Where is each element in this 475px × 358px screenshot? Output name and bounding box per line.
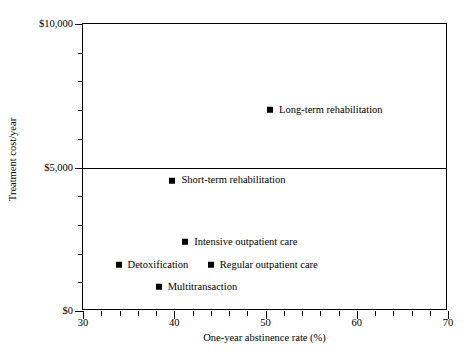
x-axis-tick-label: 30 <box>78 318 89 329</box>
y-axis-major-tick <box>75 24 83 25</box>
data-point[interactable]: Intensive outpatient care <box>182 237 297 248</box>
y-axis-major-tick <box>75 311 83 312</box>
data-point-label: Long-term rehabilitation <box>279 105 383 116</box>
x-axis-minor-tick <box>229 311 230 316</box>
x-axis-minor-tick <box>412 311 413 316</box>
x-axis-minor-tick <box>320 311 321 316</box>
x-axis-minor-tick <box>393 311 394 316</box>
x-axis-minor-tick <box>156 311 157 316</box>
y-axis-minor-tick <box>78 196 83 197</box>
data-point[interactable]: Long-term rehabilitation <box>267 105 383 116</box>
data-point-label: Regular outpatient care <box>220 259 318 270</box>
data-point[interactable]: Multitransaction <box>156 281 237 292</box>
x-axis-tick-label: 60 <box>352 318 363 329</box>
x-axis-minor-tick <box>302 311 303 316</box>
x-axis-tick-label: 70 <box>443 318 454 329</box>
x-axis-minor-tick <box>247 311 248 316</box>
y-axis-minor-tick <box>78 81 83 82</box>
data-point-label: Intensive outpatient care <box>194 237 297 248</box>
data-point[interactable]: Detoxification <box>116 259 189 270</box>
y-axis-minor-tick <box>78 53 83 54</box>
x-axis-tick-label: 40 <box>169 318 180 329</box>
x-axis-minor-tick <box>211 311 212 316</box>
y-axis-tick-label: $0 <box>63 306 74 317</box>
x-axis-minor-tick <box>339 311 340 316</box>
y-axis-title: Treatment cost/year <box>8 16 24 303</box>
y-axis-minor-tick <box>78 254 83 255</box>
data-point[interactable]: Regular outpatient care <box>208 259 318 270</box>
x-axis-minor-tick <box>284 311 285 316</box>
data-point-marker <box>169 177 175 183</box>
data-point-label: Detoxification <box>128 259 189 270</box>
x-axis-minor-tick <box>101 311 102 316</box>
y-axis-minor-tick <box>78 139 83 140</box>
reference-line <box>83 168 446 169</box>
y-axis-tick-label: $5,000 <box>44 162 73 173</box>
x-axis-minor-tick <box>193 311 194 316</box>
x-axis-minor-tick <box>375 311 376 316</box>
data-point-label: Short-term rehabilitation <box>181 175 285 186</box>
data-point-marker <box>267 107 273 113</box>
x-axis-minor-tick <box>138 311 139 316</box>
y-axis-minor-tick <box>78 110 83 111</box>
x-axis-minor-tick <box>120 311 121 316</box>
x-axis-title: One-year abstinence rate (%) <box>82 333 447 344</box>
data-point[interactable]: Short-term rehabilitation <box>169 175 285 186</box>
y-axis-tick-label: $10,000 <box>39 19 73 30</box>
x-axis-tick-label: 50 <box>260 318 271 329</box>
plot-area: $0$5,000$10,0003040506070Long-term rehab… <box>82 23 447 310</box>
y-axis-minor-tick <box>78 282 83 283</box>
data-point-label: Multitransaction <box>168 281 237 292</box>
x-axis-minor-tick <box>430 311 431 316</box>
y-axis-minor-tick <box>78 225 83 226</box>
y-axis-major-tick <box>75 168 83 169</box>
data-point-marker <box>182 239 188 245</box>
data-point-marker <box>116 262 122 268</box>
data-point-marker <box>208 262 214 268</box>
scatter-chart-figure: $0$5,000$10,0003040506070Long-term rehab… <box>0 0 475 358</box>
data-point-marker <box>156 284 162 290</box>
